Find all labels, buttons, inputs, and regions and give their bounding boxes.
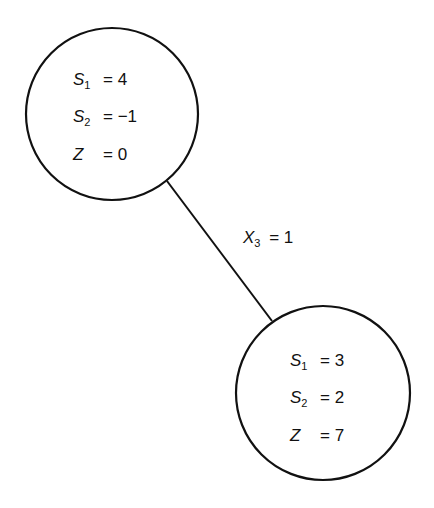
node-2-values: S1 = 3 S2 = 2 Z = 7 [290, 345, 344, 451]
var-subscript: 1 [84, 79, 90, 91]
var-value: = 4 [103, 64, 127, 101]
edge-var-value: = 1 [269, 228, 293, 247]
var-subscript: 1 [301, 360, 307, 372]
tree-diagram [0, 0, 434, 508]
var-value: = 3 [320, 345, 344, 382]
node-1-values: S1 = 4 S2 = −1 Z = 0 [73, 64, 137, 170]
node-1-row-s2: S2 = −1 [73, 101, 137, 138]
node-1-row-z: Z = 0 [73, 139, 137, 170]
var-name: S [73, 70, 84, 89]
var-name: S [73, 107, 84, 126]
edge-var-subscript: 3 [254, 237, 260, 249]
edge-line [167, 181, 272, 321]
edge-var-name: X [243, 228, 254, 247]
node-2-row-z: Z = 7 [290, 420, 344, 451]
var-value: = 0 [103, 139, 127, 170]
var-subscript: 2 [84, 117, 90, 129]
node-2-row-s1: S1 = 3 [290, 345, 344, 382]
var-value: = −1 [103, 101, 137, 138]
var-subscript: 2 [301, 398, 307, 410]
var-value: = 2 [320, 382, 344, 419]
edge-label: X3 = 1 [243, 228, 293, 249]
var-name: Z [290, 426, 300, 445]
var-name: S [290, 351, 301, 370]
node-1-row-s1: S1 = 4 [73, 64, 137, 101]
var-value: = 7 [320, 420, 344, 451]
var-name: Z [73, 145, 83, 164]
var-name: S [290, 388, 301, 407]
node-2-row-s2: S2 = 2 [290, 382, 344, 419]
